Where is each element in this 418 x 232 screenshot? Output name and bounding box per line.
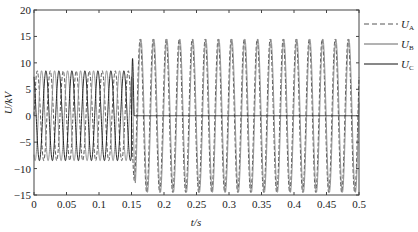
x-tick-label: 0.35 bbox=[252, 198, 272, 210]
y-tick-label: −5 bbox=[19, 136, 31, 148]
x-tick-label: 0.1 bbox=[92, 198, 106, 210]
y-tick-label: 0 bbox=[26, 110, 32, 122]
x-axis-label: t/s bbox=[191, 216, 201, 228]
x-tick-label: 0.25 bbox=[187, 198, 207, 210]
x-tick-label: 0.4 bbox=[287, 198, 301, 210]
y-axis-label: U/kV bbox=[2, 90, 14, 114]
x-tick-label: 0.2 bbox=[157, 198, 171, 210]
x-tick-label: 0 bbox=[31, 198, 37, 210]
legend: UAUBUC bbox=[364, 18, 414, 72]
x-tick-label: 0.5 bbox=[352, 198, 366, 210]
legend-label-u-a: UA bbox=[401, 18, 414, 32]
legend-label-u-b: UB bbox=[401, 38, 414, 52]
series-line-u-c bbox=[34, 59, 359, 161]
y-tick-label: 10 bbox=[20, 57, 32, 69]
y-tick-label: −10 bbox=[14, 163, 32, 175]
y-tick-label: 5 bbox=[26, 83, 32, 95]
x-tick-label: 0.3 bbox=[222, 198, 236, 210]
y-tick-label: 20 bbox=[20, 4, 32, 16]
x-tick-label: 0.05 bbox=[57, 198, 77, 210]
voltage-waveform-chart: 00.050.10.150.20.250.30.350.40.450.5 −15… bbox=[0, 0, 418, 232]
x-tick-label: 0.45 bbox=[317, 198, 337, 210]
legend-label-u-c: UC bbox=[401, 58, 414, 72]
y-tick-label: 15 bbox=[20, 30, 32, 42]
x-tick-label: 0.15 bbox=[122, 198, 142, 210]
y-tick-label: −15 bbox=[14, 189, 32, 201]
plot-series bbox=[34, 39, 359, 192]
